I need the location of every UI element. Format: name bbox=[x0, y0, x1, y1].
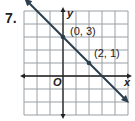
x-axis-label: x bbox=[123, 76, 131, 88]
data-point bbox=[61, 35, 66, 40]
data-point bbox=[87, 61, 92, 66]
coordinate-graph: (0, 3)(2, 1)xyO bbox=[0, 0, 135, 121]
origin-label: O bbox=[53, 76, 62, 88]
point-label: (0, 3) bbox=[70, 25, 96, 37]
point-label: (2, 1) bbox=[94, 47, 120, 59]
y-axis-label: y bbox=[66, 7, 74, 19]
